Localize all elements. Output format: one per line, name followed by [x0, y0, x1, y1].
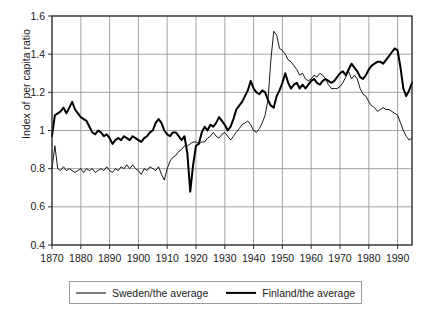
grid-lines [52, 16, 412, 245]
x-axis-tick-labels: 1870188018901900191019201930194019501960… [40, 252, 409, 264]
x-tick-label: 1980 [357, 252, 381, 264]
x-tick-label: 1870 [40, 252, 64, 264]
y-tick-label: 0.6 [30, 200, 45, 212]
legend-swatch-sweden-icon [76, 291, 106, 294]
y-axis-tick-labels: 0.40.60.811.21.41.6 [30, 10, 45, 251]
legend-swatch-finland-icon [226, 291, 256, 294]
x-tick-label: 1970 [328, 252, 352, 264]
series-line-finland [52, 48, 412, 191]
y-tick-label: 1.2 [30, 86, 45, 98]
chart-container: Index of per capita ratio 0.40.60.811.21… [0, 0, 426, 313]
series-line-sweden [52, 31, 412, 180]
y-tick-label: 1 [39, 124, 45, 136]
line-chart-plot: 0.40.60.811.21.41.6 18701880189019001910… [0, 0, 426, 313]
x-tick-label: 1990 [386, 252, 410, 264]
legend-label-finland: Finland/the average [262, 287, 355, 299]
x-tick-label: 1890 [98, 252, 122, 264]
x-tick-label: 1960 [300, 252, 324, 264]
y-tick-label: 0.8 [30, 162, 45, 174]
x-tick-label: 1880 [69, 252, 93, 264]
y-tick-label: 1.4 [30, 48, 45, 60]
legend-label-sweden: Sweden/the average [112, 287, 208, 299]
x-tick-label: 1930 [213, 252, 237, 264]
legend-item-sweden: Sweden/the average [76, 287, 208, 299]
x-tick-label: 1900 [127, 252, 151, 264]
x-tick-label: 1940 [242, 252, 266, 264]
chart-legend: Sweden/the average Finland/the average [69, 281, 362, 304]
y-tick-label: 1.6 [30, 10, 45, 22]
x-tick-label: 1950 [271, 252, 295, 264]
x-tick-label: 1910 [156, 252, 180, 264]
x-tick-label: 1920 [184, 252, 208, 264]
data-series-layer [52, 31, 412, 191]
legend-item-finland: Finland/the average [226, 287, 355, 299]
y-tick-label: 0.4 [30, 239, 45, 251]
